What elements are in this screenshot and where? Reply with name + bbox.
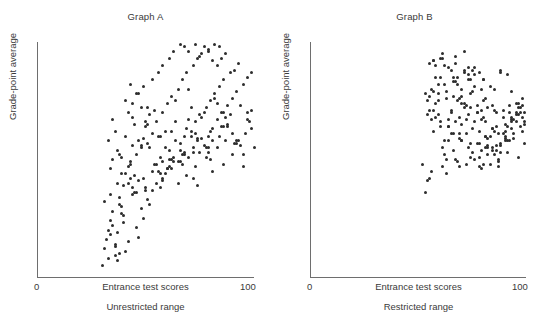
data-point bbox=[229, 71, 232, 74]
data-point bbox=[146, 106, 149, 109]
data-point bbox=[471, 151, 474, 154]
data-point bbox=[512, 132, 515, 135]
data-point bbox=[460, 88, 463, 91]
data-point bbox=[170, 167, 173, 170]
data-point bbox=[465, 163, 468, 166]
data-point bbox=[168, 149, 171, 152]
data-point bbox=[181, 78, 184, 81]
data-point bbox=[122, 221, 125, 224]
data-point bbox=[205, 106, 208, 109]
data-point bbox=[140, 207, 143, 210]
data-point bbox=[428, 109, 431, 112]
data-point bbox=[190, 130, 193, 133]
data-point bbox=[142, 177, 145, 180]
data-point bbox=[200, 137, 203, 140]
data-point bbox=[226, 123, 229, 126]
data-point bbox=[131, 102, 134, 105]
data-point bbox=[478, 71, 481, 74]
data-point bbox=[164, 130, 167, 133]
data-point bbox=[428, 177, 431, 180]
data-point bbox=[521, 130, 524, 133]
data-point bbox=[434, 116, 437, 119]
data-point bbox=[170, 130, 173, 133]
data-point bbox=[207, 151, 210, 154]
data-point bbox=[168, 158, 171, 161]
data-point bbox=[493, 153, 496, 156]
data-point bbox=[480, 149, 483, 152]
data-point bbox=[181, 163, 184, 166]
data-point bbox=[151, 78, 154, 81]
data-point bbox=[463, 50, 466, 53]
data-point bbox=[148, 113, 151, 116]
data-point bbox=[116, 149, 119, 152]
data-point bbox=[209, 130, 212, 133]
data-point bbox=[491, 104, 494, 107]
data-point bbox=[473, 66, 476, 69]
data-point bbox=[473, 158, 476, 161]
data-point bbox=[452, 132, 455, 135]
data-point bbox=[229, 113, 232, 116]
data-point bbox=[161, 64, 164, 67]
graph-b-y-axis-label: Grade-point average bbox=[280, 100, 291, 120]
data-point bbox=[200, 116, 203, 119]
data-point bbox=[441, 57, 444, 60]
data-point bbox=[443, 83, 446, 86]
data-point bbox=[131, 116, 134, 119]
data-point bbox=[164, 146, 167, 149]
data-point bbox=[131, 186, 134, 189]
data-point bbox=[426, 99, 429, 102]
data-point bbox=[237, 62, 240, 65]
data-point bbox=[246, 111, 249, 114]
data-point bbox=[510, 127, 513, 130]
data-point bbox=[437, 83, 440, 86]
data-point bbox=[482, 163, 485, 166]
data-point bbox=[443, 64, 446, 67]
data-point bbox=[506, 151, 509, 154]
data-point bbox=[473, 120, 476, 123]
data-point bbox=[216, 146, 219, 149]
data-point bbox=[467, 66, 470, 69]
data-point bbox=[127, 111, 130, 114]
data-point bbox=[133, 123, 136, 126]
data-point bbox=[432, 90, 435, 93]
graph-b-title: Graph B bbox=[273, 11, 546, 22]
data-point bbox=[517, 102, 520, 105]
data-point bbox=[482, 78, 485, 81]
data-point bbox=[192, 146, 195, 149]
data-point bbox=[179, 43, 182, 46]
data-point bbox=[105, 238, 108, 241]
data-point bbox=[233, 69, 236, 72]
data-point bbox=[473, 73, 476, 76]
data-point bbox=[497, 160, 500, 163]
data-point bbox=[109, 167, 112, 170]
data-point bbox=[151, 132, 154, 135]
graph-a-plot-area bbox=[37, 42, 254, 277]
data-point bbox=[179, 142, 182, 145]
data-point bbox=[142, 217, 145, 220]
data-point bbox=[437, 92, 440, 95]
data-point bbox=[489, 85, 492, 88]
data-point bbox=[489, 163, 492, 166]
data-point bbox=[482, 99, 485, 102]
data-point bbox=[157, 71, 160, 74]
data-point bbox=[478, 156, 481, 159]
graph-a-caption: Unrestricted range bbox=[37, 301, 254, 312]
data-point bbox=[523, 111, 526, 114]
data-point bbox=[174, 120, 177, 123]
data-point bbox=[463, 71, 466, 74]
data-point bbox=[495, 149, 498, 152]
data-point bbox=[207, 135, 210, 138]
data-point bbox=[151, 189, 154, 192]
data-point bbox=[493, 109, 496, 112]
data-point bbox=[445, 90, 448, 93]
data-point bbox=[523, 142, 526, 145]
data-point bbox=[434, 64, 437, 67]
data-point bbox=[148, 203, 151, 206]
data-point bbox=[111, 118, 114, 121]
data-point bbox=[480, 88, 483, 91]
data-point bbox=[248, 120, 251, 123]
data-point bbox=[166, 102, 169, 105]
data-point bbox=[499, 142, 502, 145]
data-point bbox=[111, 210, 114, 213]
figure-graph-b: Graph B Grade-point average 0 100 Entran… bbox=[273, 0, 546, 327]
